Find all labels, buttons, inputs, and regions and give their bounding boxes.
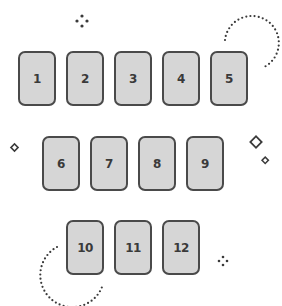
sparkle-icon (218, 256, 229, 267)
card-label: 4 (177, 72, 185, 86)
card-1[interactable]: 1 (18, 51, 56, 106)
card-5[interactable]: 5 (210, 51, 248, 106)
sparkle-icon (75, 14, 88, 27)
card-label: 10 (77, 241, 93, 255)
card-9[interactable]: 9 (186, 136, 224, 191)
card-label: 11 (125, 241, 141, 255)
card-label: 6 (57, 157, 65, 171)
card-6[interactable]: 6 (42, 136, 80, 191)
card-label: 5 (225, 72, 233, 86)
card-label: 8 (153, 157, 161, 171)
card-7[interactable]: 7 (90, 136, 128, 191)
card-label: 7 (105, 157, 113, 171)
card-label: 3 (129, 72, 137, 86)
card-12[interactable]: 12 (162, 220, 200, 275)
card-2[interactable]: 2 (66, 51, 104, 106)
card-10[interactable]: 10 (66, 220, 104, 275)
card-label: 2 (81, 72, 89, 86)
card-4[interactable]: 4 (162, 51, 200, 106)
card-8[interactable]: 8 (138, 136, 176, 191)
diamond-icon (250, 136, 261, 147)
diamond-icon (262, 157, 268, 163)
card-3[interactable]: 3 (114, 51, 152, 106)
card-label: 1 (33, 72, 41, 86)
card-label: 12 (173, 241, 189, 255)
card-11[interactable]: 11 (114, 220, 152, 275)
diamond-icon (11, 144, 18, 151)
card-label: 9 (201, 157, 209, 171)
